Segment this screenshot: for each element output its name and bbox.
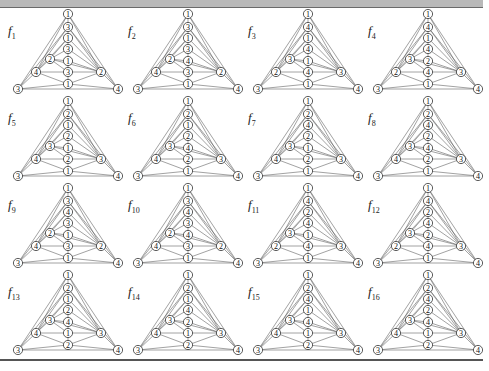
graph-edge xyxy=(410,59,461,72)
node-label: 4 xyxy=(66,208,70,217)
graph-edge xyxy=(428,101,478,176)
node-label: 4 xyxy=(476,85,480,94)
graph-node: 3 xyxy=(253,345,262,355)
node-label: 3 xyxy=(136,172,140,181)
graph-node: 4 xyxy=(473,258,482,268)
graph-node: 4 xyxy=(391,154,400,164)
graph-edge xyxy=(36,246,68,258)
graph-panel: f6121242134334 xyxy=(120,96,242,184)
graph-node: 1 xyxy=(423,9,432,19)
node-label: 1 xyxy=(426,34,430,43)
node-label: 4 xyxy=(306,121,310,130)
node-label: 4 xyxy=(34,242,38,251)
graph-edge xyxy=(68,275,118,350)
graph-edge xyxy=(18,14,68,89)
graph-edge xyxy=(138,84,188,89)
node-label: 1 xyxy=(66,121,70,130)
graph-node: 1 xyxy=(63,9,72,19)
node-label: 4 xyxy=(154,68,158,77)
node-label: 3 xyxy=(186,23,190,32)
graph-node: 3 xyxy=(456,241,465,251)
node-label: 2 xyxy=(48,55,52,64)
node-label: 3 xyxy=(66,45,70,54)
node-label: 1 xyxy=(186,10,190,19)
graph-edge xyxy=(378,171,428,176)
graph-node: 2 xyxy=(63,340,72,350)
node-label: 1 xyxy=(426,184,430,193)
graph-edge xyxy=(428,84,478,89)
node-label: 3 xyxy=(376,259,380,268)
node-label: 1 xyxy=(66,231,70,240)
graph-node: 4 xyxy=(63,207,72,217)
graph-edge xyxy=(308,258,358,263)
graph-node: 1 xyxy=(63,230,72,240)
node-label: 4 xyxy=(476,172,480,181)
node-label: 2 xyxy=(306,155,310,164)
node-label: 3 xyxy=(136,85,140,94)
graph-node: 1 xyxy=(423,183,432,193)
graph-node: 2 xyxy=(183,340,192,350)
graph-node: 4 xyxy=(423,196,432,206)
graph-edge xyxy=(396,246,428,258)
graph-edge xyxy=(308,159,341,171)
graph-node: 1 xyxy=(303,270,312,280)
node-label: 3 xyxy=(288,142,292,151)
graph-edge xyxy=(276,72,308,84)
node-label: 4 xyxy=(274,329,278,338)
graph-edge xyxy=(170,320,221,333)
graph-node: 2 xyxy=(303,283,312,293)
graph-edge xyxy=(68,171,118,176)
graph-node: 4 xyxy=(303,44,312,54)
node-label: 4 xyxy=(154,329,158,338)
graph-edge xyxy=(138,345,188,350)
node-label: 3 xyxy=(66,219,70,228)
graph-node: 1 xyxy=(63,294,72,304)
node-label: 3 xyxy=(66,23,70,32)
graph-edge xyxy=(396,333,428,345)
graph-edge xyxy=(188,14,238,89)
graph-node: 3 xyxy=(405,315,414,325)
graph-edge xyxy=(410,146,461,159)
graph-node: 3 xyxy=(183,67,192,77)
node-label: 4 xyxy=(394,155,398,164)
graph-node: 4 xyxy=(151,67,160,77)
graph-node: 4 xyxy=(303,22,312,32)
node-label: 2 xyxy=(66,132,70,141)
graph-edge xyxy=(138,101,188,176)
graph-node: 1 xyxy=(423,79,432,89)
graph-edge xyxy=(428,72,461,84)
graph-edge xyxy=(18,345,68,350)
graph-node: 3 xyxy=(216,154,225,164)
node-label: 1 xyxy=(186,167,190,176)
graph-node: 3 xyxy=(373,345,382,355)
graph-node: 1 xyxy=(183,79,192,89)
graph-node: 2 xyxy=(423,154,432,164)
graph-diagram: 141424132334 xyxy=(360,9,482,97)
graph-panel: f11142414132334 xyxy=(240,183,362,271)
node-label: 3 xyxy=(408,55,412,64)
graph-node: 3 xyxy=(45,315,54,325)
figure-header-bar xyxy=(0,0,483,8)
graph-node: 3 xyxy=(63,67,72,77)
node-label: 3 xyxy=(219,329,223,338)
graph-node: 1 xyxy=(183,33,192,43)
graph-edge xyxy=(188,258,238,263)
node-label: 1 xyxy=(306,254,310,263)
graph-node: 2 xyxy=(303,154,312,164)
graph-edge xyxy=(258,288,308,350)
node-label: 2 xyxy=(426,306,430,315)
graph-node: 3 xyxy=(285,228,294,238)
node-label: 4 xyxy=(306,23,310,32)
node-label: 2 xyxy=(274,242,278,251)
graph-node: 1 xyxy=(303,96,312,106)
graph-panel: f10134343124234 xyxy=(120,183,242,271)
graph-edge xyxy=(68,235,101,246)
node-label: 4 xyxy=(426,68,430,77)
node-label: 3 xyxy=(136,259,140,268)
graph-edge xyxy=(170,59,221,72)
graph-panel: f5121212134334 xyxy=(0,96,122,184)
node-label: 3 xyxy=(66,242,70,251)
node-label: 4 xyxy=(426,197,430,206)
graph-node: 3 xyxy=(63,218,72,228)
graph-panel: f3141414132334 xyxy=(240,9,362,97)
